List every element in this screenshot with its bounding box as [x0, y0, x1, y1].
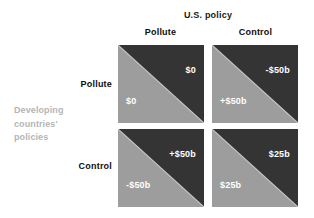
cell-dark-triangle	[212, 45, 298, 123]
payoff-us-value: -$50b	[265, 65, 290, 75]
payoff-us-value: $25b	[269, 149, 290, 159]
row-axis-title: Developing countries' policies	[14, 104, 110, 145]
matrix-cell-pollute-pollute: $0 $0	[118, 45, 204, 123]
column-header-control: Control	[213, 27, 298, 37]
row-axis-title-line-1: Developing	[14, 104, 110, 118]
payoff-matrix-figure: U.S. policy Pollute Control Pollute Cont…	[0, 0, 314, 218]
cell-dark-triangle	[212, 129, 298, 207]
column-header-pollute: Pollute	[118, 27, 203, 37]
payoff-developing-value: -$50b	[126, 180, 151, 190]
row-axis-title-line-3: policies	[14, 131, 110, 145]
cell-dark-triangle	[118, 45, 204, 123]
payoff-developing-value: $0	[126, 96, 136, 106]
row-header-control: Control	[30, 161, 112, 171]
payoff-developing-value: $25b	[220, 180, 241, 190]
matrix-cell-pollute-control: -$50b +$50b	[212, 45, 298, 123]
matrix-cell-control-pollute: +$50b -$50b	[118, 129, 204, 207]
matrix-grid: $0 $0 -$50b +$50b +$50b -$50b $25b	[118, 45, 298, 207]
matrix-cell-control-control: $25b $25b	[212, 129, 298, 207]
column-axis-title: U.S. policy	[118, 10, 298, 20]
cell-dark-triangle	[118, 129, 204, 207]
payoff-developing-value: +$50b	[220, 96, 247, 106]
payoff-us-value: $0	[186, 65, 196, 75]
payoff-us-value: +$50b	[169, 149, 196, 159]
row-header-pollute: Pollute	[30, 79, 112, 89]
row-axis-title-line-2: countries'	[14, 118, 110, 132]
